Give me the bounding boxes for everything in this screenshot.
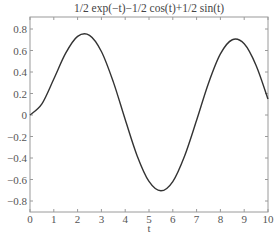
y-tick-label: 0 [22, 109, 28, 121]
x-tick-label: 2 [75, 213, 81, 225]
y-tick-label: 0.2 [13, 88, 27, 100]
line-chart: 1/2 exp(−t)−1/2 cos(t)+1/2 sin(t) 012345… [0, 0, 276, 235]
x-tick-label: 4 [122, 213, 128, 225]
x-tick-label: 10 [263, 213, 275, 225]
plot-area [30, 17, 268, 212]
x-axis-label: t [147, 222, 150, 234]
y-tick-label: −0.6 [7, 174, 27, 186]
x-tick-label: 0 [27, 213, 33, 225]
x-tick-label: 3 [99, 213, 105, 225]
chart-title: 1/2 exp(−t)−1/2 cos(t)+1/2 sin(t) [74, 2, 224, 15]
x-tick-label: 6 [170, 213, 176, 225]
x-tick-label: 8 [218, 213, 224, 225]
x-tick-label: 9 [241, 213, 247, 225]
y-tick-label: 0.6 [13, 45, 27, 57]
y-tick-label: 0.4 [13, 66, 27, 78]
x-tick-label: 1 [51, 213, 57, 225]
x-tick-label: 7 [194, 213, 200, 225]
y-tick-label: −0.4 [7, 152, 27, 164]
y-tick-label: 0.8 [13, 23, 27, 35]
y-tick-label: −0.8 [7, 195, 27, 207]
y-tick-label: −0.2 [7, 131, 27, 143]
